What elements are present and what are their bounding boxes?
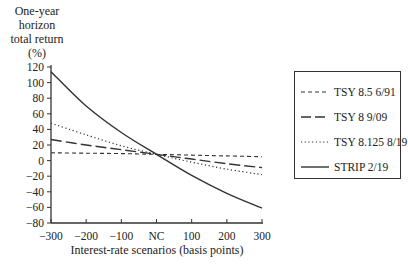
- long-dash-line-icon: [301, 114, 329, 120]
- y-tick-label: −60: [26, 201, 44, 213]
- legend: TSY 8.5 6/91 TSY 8 9/09 TSY 8.125 8/19 S…: [294, 71, 401, 179]
- legend-item-tsy-8: TSY 8 9/09: [301, 110, 387, 124]
- y-tick-label: −20: [26, 170, 44, 182]
- legend-item-strip: STRIP 2/19: [301, 160, 388, 174]
- x-tick-label: NC: [149, 230, 165, 242]
- y-tick-label: 120: [27, 61, 45, 73]
- x-axis-label: Interest-rate scenarios (basis points): [50, 243, 264, 258]
- legend-label: STRIP 2/19: [334, 161, 388, 173]
- series-line-tsy-8-125-8-19: [51, 123, 262, 174]
- legend-label: TSY 8.5 6/91: [334, 86, 396, 98]
- dotted-line-icon: [301, 139, 329, 145]
- y-tick-label: 80: [33, 92, 45, 104]
- x-tick-label: −200: [74, 230, 98, 242]
- x-tick-label: 100: [183, 230, 201, 242]
- y-tick-label: 0: [38, 155, 44, 167]
- legend-label: TSY 8.125 8/19: [334, 136, 407, 148]
- y-tick-label: 100: [27, 77, 45, 89]
- short-dash-line-icon: [301, 89, 329, 95]
- x-tick-label: 300: [253, 230, 271, 242]
- x-tick-label: −300: [39, 230, 63, 242]
- legend-label: TSY 8 9/09: [334, 111, 387, 123]
- legend-item-tsy-8.125: TSY 8.125 8/19: [301, 135, 407, 149]
- series-line-strip-2-19: [51, 72, 262, 209]
- x-tick-label: −100: [109, 230, 133, 242]
- y-tick-label: 40: [33, 123, 45, 135]
- x-tick-label: 200: [218, 230, 236, 242]
- y-tick-label: 20: [33, 139, 45, 151]
- solid-line-icon: [301, 164, 329, 170]
- y-tick-label: −80: [26, 217, 44, 229]
- y-tick-label: 60: [33, 108, 45, 120]
- y-tick-label: −40: [26, 186, 44, 198]
- legend-item-tsy-8.5: TSY 8.5 6/91: [301, 85, 396, 99]
